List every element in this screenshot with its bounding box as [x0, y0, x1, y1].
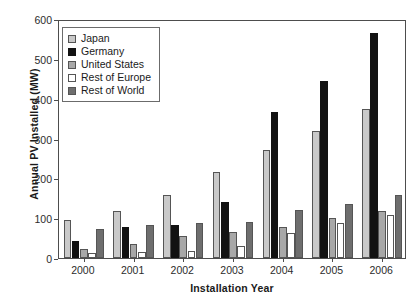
legend-item: Japan: [68, 32, 151, 45]
y-axis-tick-label: 600: [18, 14, 52, 26]
bar: [337, 223, 345, 258]
legend-label: Rest of World: [81, 85, 144, 96]
bar: [329, 218, 337, 258]
legend-label: United States: [81, 59, 144, 70]
y-axis-tick-label: 100: [18, 213, 52, 225]
y-axis-tick-label: 300: [18, 134, 52, 146]
y-axis-tick-label: 500: [18, 54, 52, 66]
x-axis-tick-mark: [382, 258, 383, 262]
legend-swatch-icon: [68, 74, 76, 82]
y-axis-tick-label: 0: [18, 253, 52, 265]
legend-item: Rest of Europe: [68, 71, 151, 84]
y-axis-tick-mark: [54, 140, 58, 141]
bar: [271, 112, 279, 258]
bar: [122, 227, 130, 258]
bar: [263, 150, 271, 258]
legend-swatch-icon: [68, 35, 76, 43]
y-axis-tick-mark: [54, 20, 58, 21]
bar: [188, 251, 196, 258]
bar: [320, 81, 328, 258]
bar: [237, 246, 245, 258]
legend-label: Japan: [81, 33, 110, 44]
y-axis-tick-mark: [54, 179, 58, 180]
legend-item: Germany: [68, 45, 151, 58]
bar: [88, 253, 96, 258]
x-axis-tick-mark: [183, 258, 184, 262]
x-axis-tick-mark: [233, 258, 234, 262]
bar: [130, 244, 138, 258]
y-axis-tick-mark: [54, 100, 58, 101]
x-axis-tick-label: 2003: [206, 264, 258, 276]
x-axis-tick-label: 2001: [107, 264, 159, 276]
legend-label: Rest of Europe: [81, 72, 151, 83]
bar: [113, 211, 121, 258]
bar: [80, 249, 88, 258]
y-axis-tick-label: 200: [18, 173, 52, 185]
bar: [395, 195, 403, 258]
x-axis-tick-label: 2004: [256, 264, 308, 276]
bar: [362, 109, 370, 258]
bar: [295, 210, 303, 258]
x-axis-tick-label: 2000: [57, 264, 109, 276]
x-axis-tick-mark: [84, 258, 85, 262]
legend-swatch-icon: [68, 61, 76, 69]
legend-item: United States: [68, 58, 151, 71]
bar: [213, 172, 221, 258]
x-axis-tick-label: 2006: [355, 264, 407, 276]
x-axis-tick-label: 2002: [156, 264, 208, 276]
x-axis-tick-mark: [134, 258, 135, 262]
bar: [246, 222, 254, 258]
bar: [179, 236, 187, 258]
y-axis-tick-label: 400: [18, 94, 52, 106]
x-axis-tick-mark: [283, 258, 284, 262]
x-axis-tick-mark: [332, 258, 333, 262]
bar: [196, 223, 204, 258]
bar: [171, 225, 179, 258]
y-axis-tick-mark: [54, 219, 58, 220]
bar: [163, 195, 171, 258]
bar: [229, 232, 237, 258]
bar: [312, 131, 320, 258]
bar: [146, 225, 154, 258]
x-axis-title: Installation Year: [58, 282, 406, 294]
bar: [387, 215, 395, 258]
bar: [96, 229, 104, 258]
bar: [345, 204, 353, 258]
legend-label: Germany: [81, 46, 124, 57]
x-axis-tick-label: 2005: [305, 264, 357, 276]
chart-legend: JapanGermanyUnited StatesRest of EuropeR…: [62, 27, 160, 102]
y-axis-tick-mark: [54, 259, 58, 260]
y-axis-tick-mark: [54, 60, 58, 61]
bar: [370, 33, 378, 258]
legend-swatch-icon: [68, 48, 76, 56]
bar: [64, 220, 72, 258]
bar: [279, 227, 287, 258]
bar: [378, 211, 386, 258]
bar: [138, 252, 146, 258]
bar: [287, 233, 295, 258]
bar: [72, 241, 80, 258]
bar: [221, 202, 229, 258]
legend-item: Rest of World: [68, 84, 151, 97]
legend-swatch-icon: [68, 87, 76, 95]
pv-installed-bar-chart: Annual PV Installed (MW) 010020030040050…: [0, 0, 420, 306]
